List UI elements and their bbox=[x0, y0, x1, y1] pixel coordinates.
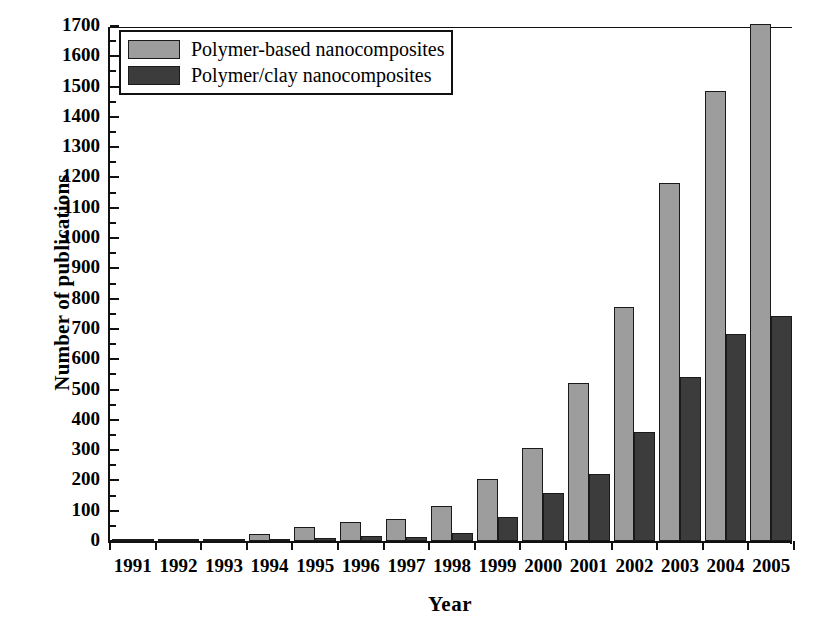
y-tick-mark bbox=[110, 207, 119, 209]
y-tick-mark bbox=[110, 298, 119, 300]
bar-1997-series2 bbox=[406, 537, 427, 541]
y-tick-label: 1100 bbox=[10, 196, 100, 218]
y-tick-label: 800 bbox=[10, 287, 100, 309]
y-tick-mark-minor bbox=[110, 404, 116, 406]
x-tick-mark bbox=[155, 541, 157, 550]
x-tick-mark bbox=[793, 541, 795, 550]
y-tick-mark-minor bbox=[110, 373, 116, 375]
x-tick-label: 2005 bbox=[731, 555, 811, 577]
bar-2003-series2 bbox=[680, 377, 701, 541]
bar-1995-series1 bbox=[294, 527, 315, 541]
y-tick-mark bbox=[110, 479, 119, 481]
legend-item-polymer-based: Polymer-based nanocomposites bbox=[128, 36, 444, 62]
bar-1992-series2 bbox=[178, 539, 199, 541]
y-tick-mark-minor bbox=[110, 464, 116, 466]
x-tick-mark bbox=[337, 541, 339, 550]
x-tick-mark bbox=[109, 541, 111, 550]
y-tick-mark bbox=[110, 328, 119, 330]
light-gray-swatch-icon bbox=[128, 40, 180, 59]
y-tick-label: 700 bbox=[10, 317, 100, 339]
bar-1998-series2 bbox=[452, 533, 473, 541]
y-tick-mark bbox=[110, 116, 119, 118]
y-tick-mark-minor bbox=[110, 222, 116, 224]
y-tick-mark bbox=[110, 510, 119, 512]
y-tick-label: 900 bbox=[10, 256, 100, 278]
y-tick-mark bbox=[110, 237, 119, 239]
chart-figure: Number of publications Year 010020030040… bbox=[0, 0, 813, 631]
bar-1992-series1 bbox=[158, 539, 179, 541]
y-tick-label: 1000 bbox=[10, 226, 100, 248]
y-tick-mark bbox=[110, 176, 119, 178]
bar-1995-series2 bbox=[315, 538, 336, 541]
bar-2003-series1 bbox=[659, 183, 680, 541]
y-tick-label: 400 bbox=[10, 408, 100, 430]
y-tick-label: 200 bbox=[10, 468, 100, 490]
y-tick-label: 1400 bbox=[10, 105, 100, 127]
y-tick-mark-minor bbox=[110, 252, 116, 254]
x-axis-title: Year bbox=[108, 592, 792, 617]
bar-1994-series2 bbox=[270, 539, 291, 541]
x-tick-mark bbox=[565, 541, 567, 550]
y-tick-label: 1600 bbox=[10, 44, 100, 66]
bar-2001-series1 bbox=[568, 383, 589, 541]
y-tick-label: 0 bbox=[10, 529, 100, 551]
bar-1993-series1 bbox=[203, 539, 224, 541]
bar-2000-series1 bbox=[522, 448, 543, 541]
x-tick-mark bbox=[246, 541, 248, 550]
legend-label: Polymer-based nanocomposites bbox=[191, 39, 444, 59]
y-tick-mark-minor bbox=[110, 70, 116, 72]
y-tick-mark-minor bbox=[110, 192, 116, 194]
bar-1998-series1 bbox=[431, 506, 452, 541]
y-tick-mark-minor bbox=[110, 161, 116, 163]
bar-2002-series2 bbox=[634, 432, 655, 541]
bar-1996-series1 bbox=[340, 522, 361, 541]
legend-label: Polymer/clay nanocomposites bbox=[191, 65, 432, 85]
x-tick-mark bbox=[519, 541, 521, 550]
y-tick-mark-minor bbox=[110, 283, 116, 285]
y-tick-mark bbox=[110, 267, 119, 269]
bar-2005-series1 bbox=[750, 24, 771, 541]
y-tick-label: 1200 bbox=[10, 165, 100, 187]
y-tick-mark bbox=[110, 25, 119, 27]
y-tick-mark bbox=[110, 419, 119, 421]
x-tick-mark bbox=[291, 541, 293, 550]
bar-1993-series2 bbox=[224, 539, 245, 541]
y-tick-mark bbox=[110, 86, 119, 88]
x-tick-mark bbox=[383, 541, 385, 550]
bar-1991-series2 bbox=[133, 539, 154, 541]
bar-2004-series1 bbox=[705, 91, 726, 541]
bar-1996-series2 bbox=[361, 536, 382, 541]
y-tick-mark-minor bbox=[110, 495, 116, 497]
y-tick-label: 600 bbox=[10, 347, 100, 369]
y-tick-label: 1300 bbox=[10, 135, 100, 157]
plot-area: 0100200300400500600700800900100011001200… bbox=[108, 28, 792, 543]
x-tick-mark bbox=[656, 541, 658, 550]
y-tick-mark bbox=[110, 449, 119, 451]
bar-1991-series1 bbox=[112, 539, 133, 541]
bar-2001-series2 bbox=[589, 474, 610, 541]
x-tick-mark bbox=[474, 541, 476, 550]
dark-gray-swatch-icon bbox=[128, 66, 180, 85]
y-tick-label: 500 bbox=[10, 378, 100, 400]
y-tick-mark-minor bbox=[110, 131, 116, 133]
y-tick-label: 1700 bbox=[10, 14, 100, 36]
y-tick-mark bbox=[110, 55, 119, 57]
y-tick-label: 300 bbox=[10, 438, 100, 460]
bar-2005-series2 bbox=[771, 316, 792, 541]
bar-1999-series1 bbox=[477, 479, 498, 541]
chart-legend: Polymer-based nanocomposites Polymer/cla… bbox=[119, 30, 453, 95]
bar-1994-series1 bbox=[249, 534, 270, 541]
y-tick-mark-minor bbox=[110, 40, 116, 42]
x-tick-mark bbox=[428, 541, 430, 550]
bar-2002-series1 bbox=[614, 307, 635, 541]
y-tick-mark-minor bbox=[110, 525, 116, 527]
y-tick-mark-minor bbox=[110, 101, 116, 103]
x-tick-mark bbox=[200, 541, 202, 550]
y-tick-mark bbox=[110, 389, 119, 391]
y-tick-mark-minor bbox=[110, 343, 116, 345]
y-tick-mark bbox=[110, 358, 119, 360]
x-tick-mark bbox=[611, 541, 613, 550]
bar-1999-series2 bbox=[498, 517, 519, 541]
y-tick-mark-minor bbox=[110, 313, 116, 315]
x-tick-mark bbox=[747, 541, 749, 550]
